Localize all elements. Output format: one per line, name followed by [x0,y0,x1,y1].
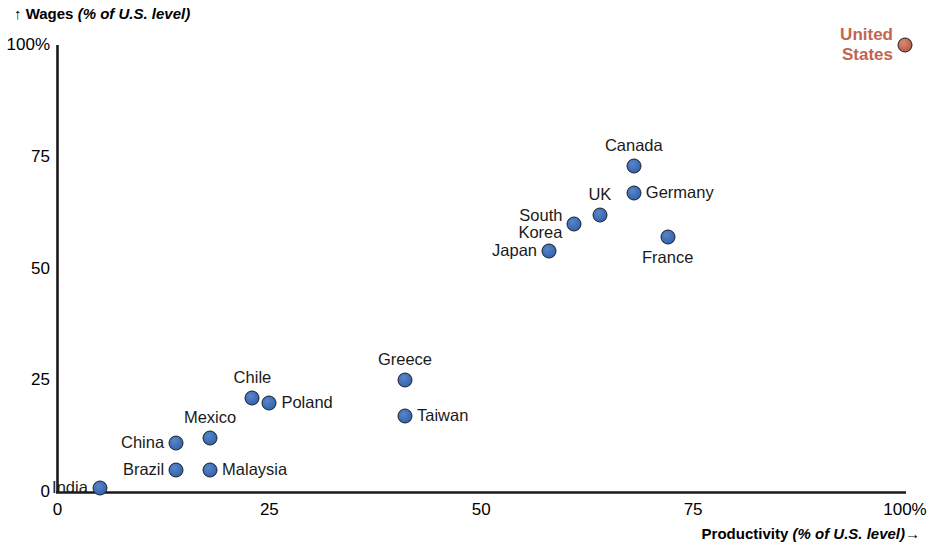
y-axis-title-unit: (% of U.S. level) [78,5,191,22]
data-point-label: Canada [605,136,663,153]
x-tick-label: 75 [684,500,703,520]
data-point-label: India [52,479,88,496]
y-tick-label: 0 [41,482,50,502]
data-point-label: Greece [378,351,432,368]
y-tick-label: 25 [31,370,50,390]
x-tick-label: 50 [472,500,491,520]
y-axis-arrow-icon: ↑ [14,5,22,22]
data-point[interactable] [169,435,184,450]
x-axis-title-text: Productivity [702,525,789,542]
x-axis-arrow-icon: → [905,525,920,542]
data-point-label: Mexico [184,409,236,426]
x-axis-title: Productivity (% of U.S. level)→ [702,525,920,542]
data-point[interactable] [245,391,260,406]
data-point[interactable] [397,373,412,388]
data-point-label: UK [588,185,611,202]
data-point-label: Chile [234,369,272,386]
data-point[interactable] [660,230,675,245]
data-point-label: UnitedStates [840,25,893,64]
data-point[interactable] [262,395,277,410]
data-point-label: Poland [281,394,332,411]
data-point[interactable] [169,462,184,477]
y-tick-label: 100% [7,35,50,55]
data-point[interactable] [626,158,641,173]
x-tick-label: 25 [260,500,279,520]
data-point-label: Brazil [123,461,164,478]
data-point-label: SouthKorea [518,206,562,241]
data-point-label: France [642,249,693,266]
data-point-label: China [121,434,164,451]
y-tick-label: 75 [31,147,50,167]
data-point-label: Taiwan [417,407,468,424]
data-point[interactable] [92,480,107,495]
x-tick-label: 0 [53,500,62,520]
x-tick-label: 100% [883,500,926,520]
x-axis-title-unit: (% of U.S. level) [792,525,905,542]
data-point[interactable] [898,38,913,53]
data-point[interactable] [542,243,557,258]
data-point[interactable] [567,216,582,231]
data-point-label: Japan [492,242,537,259]
data-point-label: Malaysia [222,461,287,478]
y-axis-title-text: Wages [26,5,74,22]
data-point[interactable] [203,462,218,477]
scatter-chart: ↑ Wages (% of U.S. level) Productivity (… [0,0,936,547]
y-axis-title: ↑ Wages (% of U.S. level) [14,5,190,22]
data-point[interactable] [626,185,641,200]
data-point[interactable] [203,431,218,446]
data-point[interactable] [592,207,607,222]
y-tick-label: 50 [31,259,50,279]
data-point[interactable] [397,409,412,424]
data-point-label: Germany [646,184,714,201]
